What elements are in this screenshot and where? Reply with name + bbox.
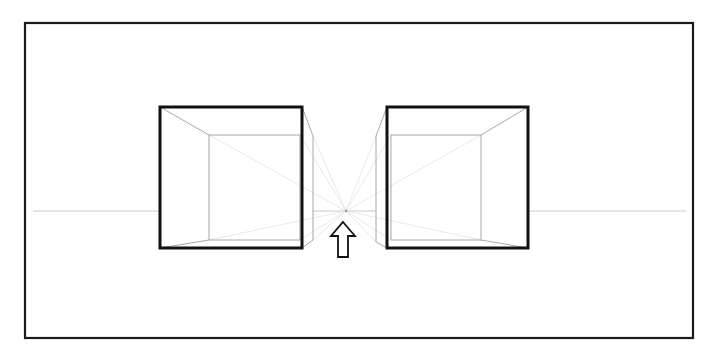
- right-cube: [376, 107, 528, 248]
- left-cube-construction: [160, 107, 313, 248]
- outer-frame: [25, 23, 693, 338]
- diagram-canvas: [0, 0, 718, 359]
- left-cube-front-face: [160, 107, 302, 248]
- arrow-up-icon: [331, 222, 355, 257]
- right-cube-front-face: [387, 107, 528, 248]
- vanishing-point: [345, 210, 347, 212]
- left-cube: [160, 107, 313, 248]
- right-cube-construction: [376, 107, 528, 248]
